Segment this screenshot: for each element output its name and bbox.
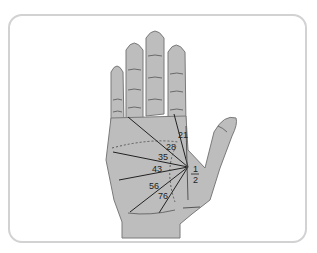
age-label-35: 35 [158,152,168,162]
ring-finger [126,43,143,120]
fraction-denominator: 2 [193,175,198,185]
age-label-28: 28 [166,142,176,152]
age-label-76: 76 [158,191,168,201]
middle-finger [146,31,164,116]
age-label-43: 43 [152,164,162,174]
little-finger [111,66,124,124]
palm [106,116,237,238]
fraction-numerator: 1 [193,164,198,174]
palm-diagram: 21 28 35 43 56 76 1 2 [0,0,317,253]
hand-illustration [106,31,237,238]
index-finger [168,45,186,126]
age-label-56: 56 [149,181,159,191]
age-label-21: 21 [178,130,188,140]
